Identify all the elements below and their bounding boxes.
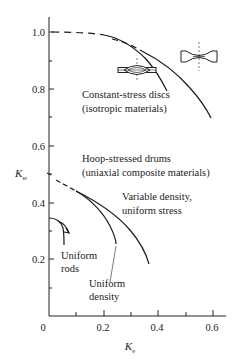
x-tick-0.4: 0.4 <box>150 322 164 333</box>
y-axis-title: Kw <box>14 167 27 182</box>
kw-vs-kv-chart: 1.0 0.8 0.6 0.4 0.2 0 0.2 0.4 0.6 Kv Kw <box>0 0 237 363</box>
variable-density-label-line2: uniform stress <box>122 205 182 216</box>
drums-label-line2: (uniaxial composite materials) <box>82 167 210 179</box>
variable-density-label-line1: Variable density, <box>122 191 192 202</box>
x-tick-0: 0 <box>40 322 45 333</box>
y-tick-0.2: 0.2 <box>32 254 45 265</box>
discs-label-line2: (isotropic materials) <box>82 103 167 115</box>
x-tick-0.2: 0.2 <box>96 322 109 333</box>
rimmed-disc-curve-dashed <box>112 39 140 50</box>
uniform-rods-label-line2: rods <box>61 263 79 274</box>
uniform-density-leader <box>110 246 116 282</box>
y-tick-0.6: 0.6 <box>32 141 45 152</box>
x-axis-title: Kv <box>124 340 136 355</box>
drums-label-line1: Hoop-stressed drums <box>82 153 171 164</box>
rimmed-disc-profile-icon <box>181 42 217 71</box>
discs-label-line1: Constant-stress discs <box>82 89 170 100</box>
flat-disc-curve <box>104 35 167 91</box>
disc-curve-dashed-start <box>52 32 104 35</box>
uniform-density-label-line2: density <box>89 291 120 302</box>
x-tick-0.6: 0.6 <box>205 322 218 333</box>
y-tick-0.4: 0.4 <box>32 198 46 209</box>
flat-disc-profile-icon <box>118 58 156 82</box>
y-tick-1.0: 1.0 <box>32 27 45 38</box>
y-tick-0.8: 0.8 <box>32 84 45 95</box>
uniform-density-label-line1: Uniform <box>89 278 125 289</box>
drum-curve-dashed-start <box>56 180 76 191</box>
uniform-density-curve <box>76 191 116 244</box>
uniform-rods-label-line1: Uniform <box>61 250 97 261</box>
